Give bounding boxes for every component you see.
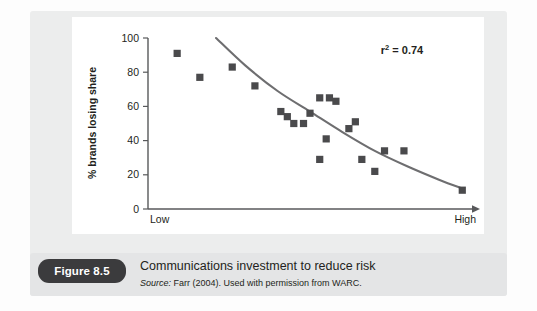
figure-container: 020406080100 Low High r2 = 0.74 % brands… <box>0 0 537 311</box>
data-point-marker <box>326 94 333 101</box>
figure-caption-bar: Figure 8.5 Communications investment to … <box>30 253 507 296</box>
x-axis-high-label: High <box>454 213 476 225</box>
data-point-marker <box>300 120 307 127</box>
y-axis-tick-label: 60 <box>127 100 139 112</box>
figure-source-note: Source: Farr (2004). Used with permissio… <box>140 278 362 288</box>
data-point-marker <box>323 135 330 142</box>
data-point-marker <box>332 98 339 105</box>
source-text: Farr (2004). Used with permission from W… <box>171 278 362 288</box>
y-axis-tick-label: 20 <box>127 168 139 180</box>
figure-number-badge: Figure 8.5 <box>38 259 126 283</box>
y-axis-tick-label: 0 <box>133 203 139 215</box>
data-point-marker <box>277 108 284 115</box>
data-point-marker <box>371 168 378 175</box>
scatter-chart: 020406080100 Low High r2 = 0.74 % brands… <box>72 17 484 234</box>
data-point-marker <box>251 82 258 89</box>
data-point-marker <box>352 118 359 125</box>
data-point-marker <box>345 125 352 132</box>
figure-caption-title: Communications investment to reduce risk <box>140 259 376 273</box>
data-point-marker <box>459 187 466 194</box>
y-axis-title: % brands losing share <box>86 67 98 179</box>
data-point-marker <box>400 147 407 154</box>
y-axis-tick-label: 80 <box>127 66 139 78</box>
data-point-marker <box>316 156 323 163</box>
x-axis-low-label: Low <box>150 213 170 225</box>
r-squared-annotation: r2 = 0.74 <box>381 43 424 56</box>
y-axis-tick-label: 40 <box>127 134 139 146</box>
data-point-marker <box>290 120 297 127</box>
data-point-marker <box>229 63 236 70</box>
data-point-marker <box>196 74 203 81</box>
x-axis-arrow-icon <box>472 205 480 213</box>
r-squared-value: = 0.74 <box>389 44 424 56</box>
y-axis-ticks: 020406080100 <box>121 32 148 215</box>
figure-number-label: Figure 8.5 <box>54 265 109 277</box>
data-point-marker <box>316 94 323 101</box>
trend-line <box>216 38 462 188</box>
y-axis-tick-label: 100 <box>121 32 139 44</box>
data-point-marker <box>306 110 313 117</box>
plot-card: 020406080100 Low High r2 = 0.74 % brands… <box>72 17 484 234</box>
chart-area: 020406080100 Low High r2 = 0.74 % brands… <box>72 17 484 234</box>
data-point-marker <box>381 147 388 154</box>
data-point-marker <box>284 113 291 120</box>
data-point-marker <box>174 50 181 57</box>
data-point-marker <box>358 156 365 163</box>
source-prefix: Source: <box>140 278 171 288</box>
